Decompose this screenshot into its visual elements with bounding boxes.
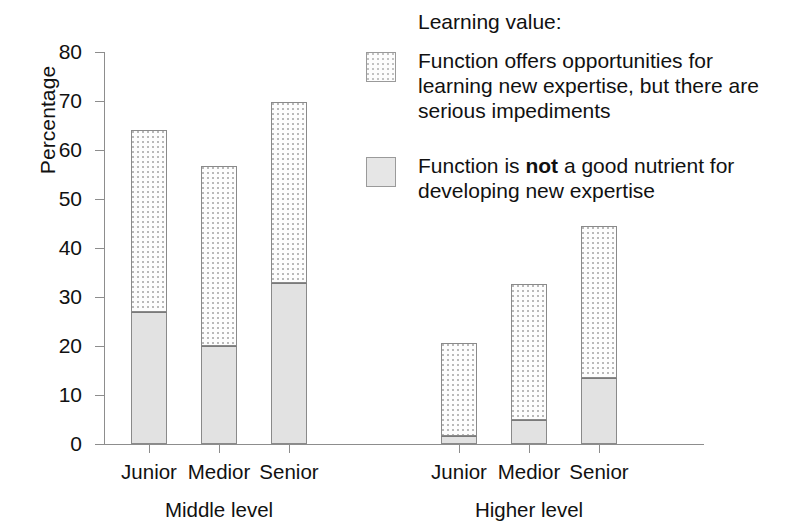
legend-entry-offers-opportunities[interactable]: Function offers opportunities for learni…	[366, 48, 806, 123]
y-tick	[95, 444, 104, 445]
legend-text-pre: Function is	[418, 154, 525, 177]
bar-segment-not-good-nutrient[interactable]	[511, 420, 547, 444]
y-tick-label: 70	[22, 89, 82, 113]
bar-segment-offers-opportunities[interactable]	[441, 343, 477, 436]
x-axis-tick-label: Medior	[188, 460, 251, 484]
x-axis-tick-label: Junior	[121, 460, 177, 484]
legend-entry-not-good-nutrient[interactable]: Function is not a good nutrient for deve…	[366, 153, 806, 203]
legend-text-post: a good nutrient for	[558, 154, 734, 177]
chart-root: Percentage 01020304050607080 JuniorMedio…	[0, 0, 809, 526]
bar-senior-2[interactable]	[271, 102, 307, 444]
y-tick-label: 40	[22, 236, 82, 260]
y-tick	[95, 297, 104, 298]
legend-line-3: serious impediments	[418, 98, 806, 123]
bar-segment-not-good-nutrient[interactable]	[201, 346, 237, 444]
bar-segment-offers-opportunities[interactable]	[581, 226, 617, 378]
legend-entry-text: Function offers opportunities for learni…	[418, 48, 806, 123]
bar-segment-offers-opportunities[interactable]	[511, 284, 547, 420]
legend-line-2: learning new expertise, but there are	[418, 73, 806, 98]
legend-swatch-solid-icon	[366, 157, 396, 187]
legend-line-1: Function is not a good nutrient for	[418, 153, 806, 178]
bar-segment-not-good-nutrient[interactable]	[131, 312, 167, 444]
legend-entry-text: Function is not a good nutrient for deve…	[418, 153, 806, 203]
x-tick	[289, 444, 290, 453]
bar-senior-5[interactable]	[581, 226, 617, 444]
y-tick	[95, 346, 104, 347]
bar-medior-4[interactable]	[511, 284, 547, 444]
x-axis-tick-label: Senior	[569, 460, 628, 484]
legend-text-emphasis: not	[525, 154, 558, 177]
x-axis-line	[95, 444, 704, 445]
bar-segment-not-good-nutrient[interactable]	[271, 283, 307, 444]
bar-junior-0[interactable]	[131, 130, 167, 444]
y-tick	[95, 101, 104, 102]
y-tick-label: 0	[22, 432, 82, 456]
bar-segment-offers-opportunities[interactable]	[271, 102, 307, 283]
legend: Learning value: Function offers opportun…	[366, 10, 806, 221]
y-tick-label: 80	[22, 40, 82, 64]
bar-junior-3[interactable]	[441, 343, 477, 444]
x-axis-tick-label: Junior	[431, 460, 487, 484]
x-axis-tick-label: Senior	[259, 460, 318, 484]
legend-swatch-dotted-icon	[366, 52, 396, 82]
legend-line-2: developing new expertise	[418, 178, 806, 203]
legend-title: Learning value:	[418, 10, 806, 34]
bar-segment-offers-opportunities[interactable]	[201, 166, 237, 346]
y-tick	[95, 395, 104, 396]
bar-medior-1[interactable]	[201, 166, 237, 444]
y-tick	[95, 199, 104, 200]
y-tick-label: 10	[22, 383, 82, 407]
x-tick	[529, 444, 530, 453]
y-tick-label: 50	[22, 187, 82, 211]
x-axis-group-label: Middle level	[165, 498, 273, 522]
bar-segment-not-good-nutrient[interactable]	[581, 378, 617, 444]
x-axis-group-label: Higher level	[475, 498, 583, 522]
bar-segment-offers-opportunities[interactable]	[131, 130, 167, 311]
y-tick-label: 60	[22, 138, 82, 162]
y-tick	[95, 248, 104, 249]
y-tick-label: 30	[22, 285, 82, 309]
x-axis-tick-label: Medior	[498, 460, 561, 484]
y-tick	[95, 150, 104, 151]
y-axis-line	[104, 52, 105, 444]
x-tick	[459, 444, 460, 453]
x-tick	[219, 444, 220, 453]
x-tick	[149, 444, 150, 453]
legend-line-1: Function offers opportunities for	[418, 48, 806, 73]
y-tick	[95, 52, 104, 53]
bar-segment-not-good-nutrient[interactable]	[441, 436, 477, 444]
y-tick-label: 20	[22, 334, 82, 358]
x-tick	[599, 444, 600, 453]
